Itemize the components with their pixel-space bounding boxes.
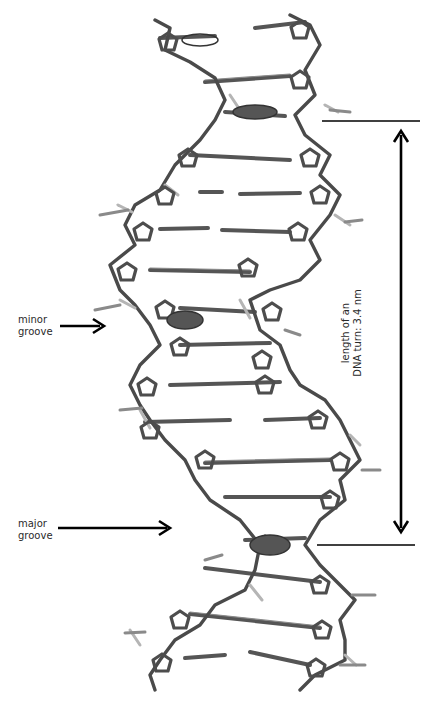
- minor-groove-label-line1: minor: [18, 314, 53, 326]
- sugar-rings: [118, 21, 349, 676]
- dna-molecule: [95, 15, 380, 690]
- major-groove-label: major groove: [18, 518, 53, 542]
- turn-length-label-line1: length of an: [340, 289, 352, 376]
- dna-helix-figure: [0, 0, 435, 717]
- turn-length-label-line2: DNA turn: 3.4 nm: [352, 289, 364, 376]
- annotations: [58, 121, 420, 545]
- minor-groove-label-line2: groove: [18, 326, 53, 338]
- minor-groove-label: minor groove: [18, 314, 53, 338]
- major-groove-label-line1: major: [18, 518, 53, 530]
- major-groove-label-line2: groove: [18, 530, 53, 542]
